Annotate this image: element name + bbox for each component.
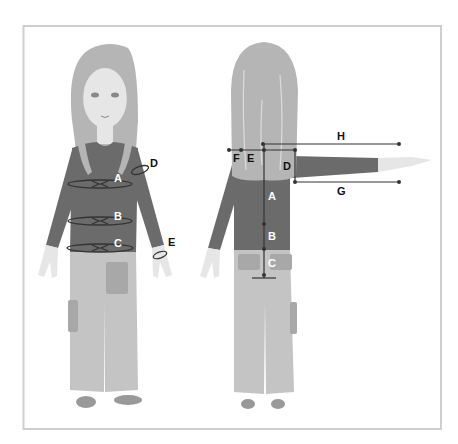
back-label-a: A [268,190,276,202]
back-pocket-left [238,254,260,270]
scene [0,0,458,444]
back-left-shoe [241,399,255,409]
front-right-eye [111,93,119,98]
back-label-b: B [268,230,276,242]
back-label-g: G [337,185,346,197]
front-label-e: E [168,236,175,248]
back-label-d: D [283,160,291,172]
front-label-c: C [114,237,122,249]
front-pocket-right [106,262,128,294]
back-right-shoe [271,399,285,409]
front-label-d: D [150,157,158,169]
back-label-c: C [268,257,276,269]
front-left-shoe [76,396,96,408]
front-pocket-left [68,300,78,332]
front-face [83,68,127,128]
front-right-shoe [114,395,142,405]
front-label-a: A [114,172,122,184]
back-side-pocket [290,302,297,334]
front-label-b: B [114,210,122,222]
front-left-eye [91,93,99,98]
back-label-e: E [247,152,254,164]
back-label-h: H [337,130,345,142]
back-shirt [234,172,290,250]
back-label-f: F [233,152,240,164]
